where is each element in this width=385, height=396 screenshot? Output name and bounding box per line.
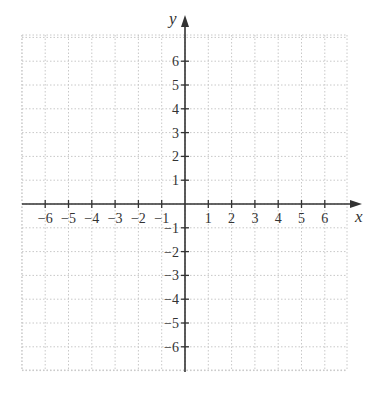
y-tick-label: 6 bbox=[172, 54, 179, 69]
y-tick-label: 1 bbox=[172, 173, 179, 188]
y-axis-arrow-icon bbox=[181, 15, 189, 27]
x-tick-label: −5 bbox=[61, 211, 76, 226]
y-tick-label: −5 bbox=[164, 316, 179, 331]
y-tick-label: −6 bbox=[164, 340, 179, 355]
y-tick-label: −1 bbox=[164, 221, 179, 236]
x-tick-label: 5 bbox=[298, 211, 305, 226]
x-tick-label: 6 bbox=[321, 211, 328, 226]
x-tick-label: 4 bbox=[275, 211, 282, 226]
x-tick-label: 1 bbox=[205, 211, 212, 226]
x-tick-label: −4 bbox=[84, 211, 99, 226]
y-tick-label: 2 bbox=[172, 149, 179, 164]
y-tick-label: 3 bbox=[172, 126, 179, 141]
x-tick-label: −2 bbox=[131, 211, 146, 226]
x-tick-label: −6 bbox=[38, 211, 53, 226]
x-tick-label: 3 bbox=[251, 211, 258, 226]
y-tick-label: 5 bbox=[172, 78, 179, 93]
coordinate-plane: −6−5−4−3−2−1123456654321−1−2−3−4−5−6 x y bbox=[0, 0, 385, 396]
x-tick-label: 2 bbox=[228, 211, 235, 226]
x-axis-label: x bbox=[354, 207, 363, 226]
axes bbox=[22, 15, 362, 372]
y-tick-label: −2 bbox=[164, 245, 179, 260]
y-tick-label: −3 bbox=[164, 268, 179, 283]
y-axis-label: y bbox=[167, 9, 177, 28]
y-tick-label: −4 bbox=[164, 292, 179, 307]
x-tick-label: −3 bbox=[108, 211, 123, 226]
y-tick-label: 4 bbox=[172, 102, 179, 117]
